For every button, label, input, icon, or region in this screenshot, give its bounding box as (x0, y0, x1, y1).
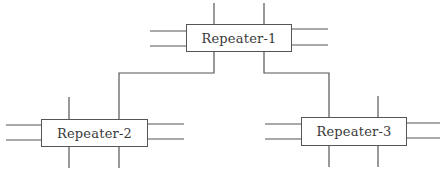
link-r1-r3 (264, 52, 329, 117)
repeater-1-node: Repeater-1 (186, 24, 292, 52)
repeater-2-node: Repeater-2 (41, 119, 148, 147)
link-r1-r2 (119, 52, 214, 119)
repeater-2-label: Repeater-2 (57, 126, 132, 141)
repeater-3-node: Repeater-3 (301, 117, 407, 146)
repeater-3-label: Repeater-3 (316, 124, 391, 139)
repeater-1-label: Repeater-1 (201, 31, 276, 46)
